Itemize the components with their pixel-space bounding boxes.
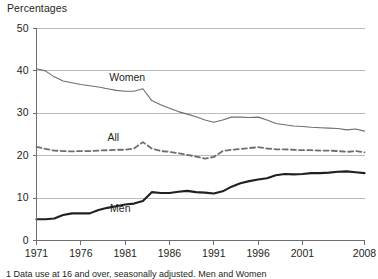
y-axis-tick-label: 40 bbox=[5, 64, 29, 76]
tick-marks-group bbox=[33, 29, 365, 245]
y-axis-tick-label: 50 bbox=[5, 22, 29, 34]
x-axis-tick-label: 2008 bbox=[345, 247, 378, 259]
y-axis-tick-label: 20 bbox=[5, 149, 29, 161]
y-axis-tick-label: 0 bbox=[5, 234, 29, 246]
x-axis-tick-label: 1986 bbox=[149, 247, 189, 259]
chart-plot-area bbox=[0, 0, 378, 279]
axis-lines-group bbox=[37, 29, 365, 241]
x-axis-tick-label: 1971 bbox=[17, 247, 57, 259]
y-axis-tick-label: 10 bbox=[5, 191, 29, 203]
series-line-women bbox=[37, 69, 365, 131]
series-paths-group bbox=[37, 69, 365, 220]
gridlines-group bbox=[37, 29, 365, 241]
chart-container: Percentages 01020304050 1971197619811986… bbox=[0, 0, 378, 279]
x-axis-tick-label: 1996 bbox=[238, 247, 278, 259]
x-axis-tick-label: 1981 bbox=[105, 247, 145, 259]
chart-footnote: 1 Data use at 16 and over, seasonally ad… bbox=[6, 269, 378, 279]
x-axis-tick-label: 2001 bbox=[282, 247, 322, 259]
series-label-all: All bbox=[107, 131, 119, 143]
series-label-women: Women bbox=[109, 71, 145, 83]
series-line-men bbox=[37, 171, 365, 219]
y-axis-tick-label: 30 bbox=[5, 106, 29, 118]
x-axis-tick-label: 1976 bbox=[61, 247, 101, 259]
series-label-men: Men bbox=[110, 202, 130, 214]
x-axis-tick-label: 1991 bbox=[194, 247, 234, 259]
